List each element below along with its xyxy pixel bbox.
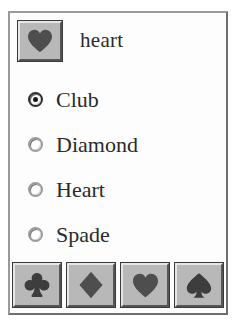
heart-display-button[interactable] [18, 21, 62, 61]
radio-label-heart: Heart [56, 177, 105, 203]
club-button[interactable] [13, 263, 61, 307]
heart-button[interactable] [121, 263, 169, 307]
diamond-button[interactable] [67, 263, 115, 307]
spade-icon [186, 272, 212, 299]
spade-button[interactable] [175, 263, 223, 307]
radio-label-club: Club [56, 87, 99, 113]
suit-radio-group: Club Diamond Heart Spade [28, 77, 218, 257]
radio-option-spade[interactable]: Spade [28, 212, 218, 257]
radio-option-diamond[interactable]: Diamond [28, 122, 218, 167]
dialog-window: heart Club Diamond Heart Spade [8, 11, 228, 315]
heart-icon [132, 273, 159, 298]
dialog-content-panel: heart Club Diamond Heart Spade [10, 13, 226, 313]
radio-option-club[interactable]: Club [28, 77, 218, 122]
radio-label-diamond: Diamond [56, 132, 138, 158]
suit-button-toolbar [13, 260, 225, 310]
radio-indicator-diamond[interactable] [28, 137, 43, 152]
radio-indicator-club[interactable] [28, 92, 43, 107]
display-row: heart [18, 17, 218, 65]
club-icon [24, 272, 50, 298]
display-label: heart [80, 25, 123, 55]
diamond-icon [78, 271, 104, 299]
heart-icon [27, 29, 53, 53]
radio-option-heart[interactable]: Heart [28, 167, 218, 212]
radio-indicator-heart[interactable] [28, 182, 43, 197]
radio-indicator-spade[interactable] [28, 227, 43, 242]
radio-label-spade: Spade [56, 222, 110, 248]
